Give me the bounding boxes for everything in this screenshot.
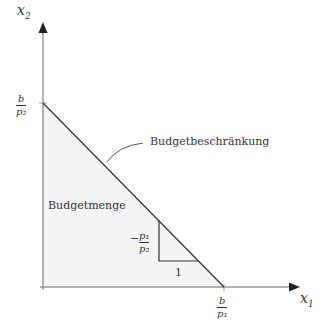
- y-intercept-label: b p₂: [16, 94, 26, 117]
- slope-rise-label: p₁ p₂: [139, 231, 149, 254]
- x-intercept-label: b p₁: [217, 296, 227, 319]
- budget-diagram: [0, 0, 329, 329]
- budget-set-label: Budgetmenge: [48, 199, 126, 212]
- budget-line-label: Budgetbeschränkung: [150, 135, 269, 148]
- slope-rise-sign: −: [130, 232, 139, 245]
- label-pointer: [107, 143, 143, 162]
- y-axis-arrow-icon: [39, 22, 48, 33]
- y-axis-label: x2: [17, 2, 31, 21]
- slope-run-label: 1: [175, 266, 182, 279]
- x-axis-label: x1: [300, 290, 314, 309]
- x-axis-arrow-icon: [289, 283, 300, 292]
